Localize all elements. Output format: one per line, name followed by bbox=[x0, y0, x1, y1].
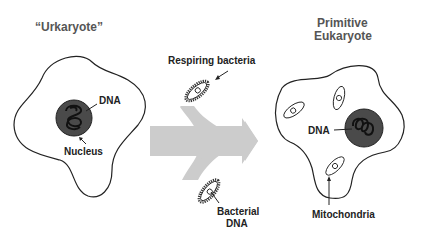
urkaryote-nucleus-label: Nucleus bbox=[64, 146, 103, 157]
urkaryote-title: “Urkaryote” bbox=[35, 20, 103, 34]
bacterium-with-dna bbox=[195, 176, 222, 205]
eukaryote-title-line2: Eukaryote bbox=[314, 29, 372, 43]
eukaryote-cell-membrane bbox=[276, 66, 404, 199]
urkaryote-dna-label: DNA bbox=[99, 95, 121, 106]
mitochondria-arrowhead bbox=[327, 176, 331, 181]
eukaryote-title-line1: Primitive bbox=[317, 16, 368, 30]
eukaryote-nucleus bbox=[345, 109, 383, 147]
bacterial-dna-label-line1: Bacterial bbox=[217, 206, 259, 217]
eukaryote-dna-label: DNA bbox=[308, 125, 330, 136]
mitochondrion-1 bbox=[281, 99, 306, 121]
respiring-bacteria-arrowhead bbox=[215, 75, 220, 80]
mitochondrion-3 bbox=[323, 154, 347, 178]
mitochondria-label: Mitochondria bbox=[312, 209, 375, 220]
endosymbiosis-diagram: “Urkaryote” DNA Nucleus Respiring bacter… bbox=[0, 0, 424, 236]
respiring-bacterium bbox=[182, 77, 211, 104]
bacterial-dna-label-line2: DNA bbox=[226, 218, 248, 229]
respiring-bacteria-label: Respiring bacteria bbox=[168, 55, 256, 66]
mitochondrion-2 bbox=[331, 85, 347, 111]
merge-arrow-upper-branch bbox=[180, 106, 218, 127]
